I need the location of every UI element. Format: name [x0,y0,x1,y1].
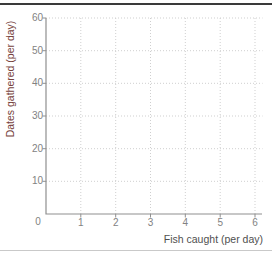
x-tick-label-2: 2 [106,218,126,228]
y-tick-label-40: 40 [21,78,43,88]
x-tick-label-1: 1 [71,218,91,228]
x-tick-label-3: 3 [141,218,161,228]
chart: 60 50 40 30 20 10 0 1 2 3 4 5 6 Fish cau… [0,0,272,254]
y-axis-title: Dates gathered (per day) [4,21,16,138]
x-tick-label-4: 4 [175,218,195,228]
x-tick-label-5: 5 [210,218,230,228]
y-tick-label-20: 20 [21,144,43,154]
x-axis-title: Fish caught (per day) [164,233,263,245]
tick-marks [43,18,256,218]
bottom-rule [0,250,272,251]
gridlines [46,18,263,214]
x-tick-label-6: 6 [245,218,265,228]
y-tick-label-60: 60 [21,13,43,23]
y-tick-label-10: 10 [21,176,43,186]
y-tick-label-30: 30 [21,111,43,121]
y-tick-label-50: 50 [21,46,43,56]
origin-label: 0 [31,217,45,227]
